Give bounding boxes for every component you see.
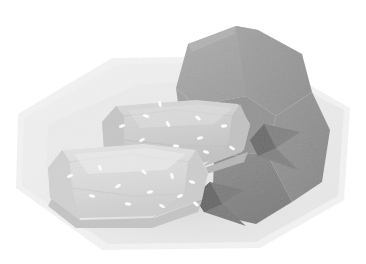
origami-food-image: Origami bread rolls on a plate Two sesam… <box>0 0 366 264</box>
scene-svg <box>0 0 366 264</box>
global-haze <box>0 0 366 264</box>
